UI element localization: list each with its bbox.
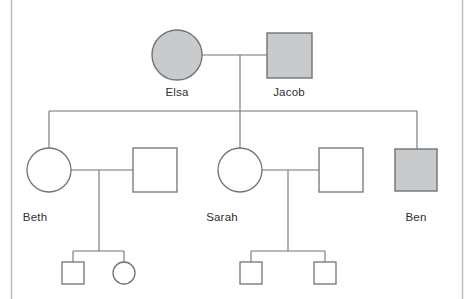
label-jacob: Jacob [273,86,305,98]
symbol-beth-child-1-male-unaffected[interactable] [62,262,84,284]
label-ben: Ben [405,211,426,223]
label-sarah: Sarah [206,211,238,223]
symbol-jacob-male-affected[interactable] [267,33,312,78]
generation-2-sibship-links [49,111,417,149]
pedigree-figure: Elsa Jacob Beth Sarah Ben [0,0,475,299]
symbol-sarah-female-unaffected[interactable] [218,148,262,192]
symbol-elsa-female-affected[interactable] [152,30,202,80]
symbol-sarah-child-1-male-unaffected[interactable] [240,262,262,284]
symbol-sarah-child-2-male-unaffected[interactable] [314,262,336,284]
symbol-beth-child-2-female-unaffected[interactable] [113,262,135,284]
symbol-beth-female-unaffected[interactable] [27,148,71,192]
symbol-beth-spouse-male-unaffected[interactable] [133,148,177,192]
pedigree-chart: Elsa Jacob Beth Sarah Ben [0,0,475,299]
symbol-ben-male-affected[interactable] [395,149,437,191]
label-beth: Beth [23,211,47,223]
beth-couple-links [71,170,133,262]
generation-3-symbols [62,262,336,284]
generation-1-links [202,55,267,111]
symbol-sarah-spouse-male-unaffected[interactable] [319,148,363,192]
label-elsa: Elsa [165,86,189,98]
sarah-couple-links [251,170,325,262]
